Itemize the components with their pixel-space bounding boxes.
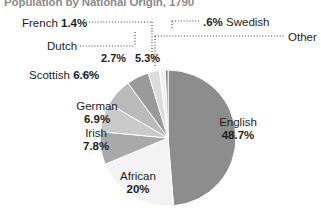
label-german: German 6.9% [66, 100, 128, 125]
label-english: English 48.7% [207, 116, 269, 141]
label-dutch: Dutch [47, 40, 77, 53]
label-swedish-name: Swedish [226, 16, 269, 28]
label-french-pct: 1.4% [61, 17, 87, 29]
label-french: French 1.4% [22, 17, 87, 30]
label-english-name: English [219, 116, 257, 128]
label-german-pct: 6.9% [84, 113, 110, 125]
label-english-pct: 48.7% [222, 129, 255, 141]
label-dutch-name: Dutch [47, 40, 77, 52]
label-irish-pct: 7.8% [83, 140, 109, 152]
label-african-pct: 20% [126, 183, 149, 195]
label-swedish-pct: .6% [203, 16, 223, 28]
leader-lines [79, 21, 285, 74]
label-scottish: Scottish 6.6% [29, 69, 99, 82]
label-german-name: German [76, 100, 118, 112]
label-scottish-pct: 6.6% [73, 69, 99, 81]
label-african: African 20% [106, 170, 170, 195]
label-african-name: African [120, 170, 156, 182]
label-swedish: .6% Swedish [203, 16, 270, 29]
pie-chart-figure: Population by National Origin, 1790 [0, 0, 321, 223]
label-other: Other [288, 31, 317, 44]
label-other-pct: 5.3% [135, 52, 160, 65]
label-irish-name: Irish [85, 127, 107, 139]
label-scottish-name: Scottish [29, 69, 70, 81]
label-other-name: Other [288, 31, 317, 43]
label-dutch-pct: 2.7% [101, 52, 126, 65]
label-french-name: French [22, 17, 58, 29]
label-irish: Irish 7.8% [70, 127, 122, 152]
